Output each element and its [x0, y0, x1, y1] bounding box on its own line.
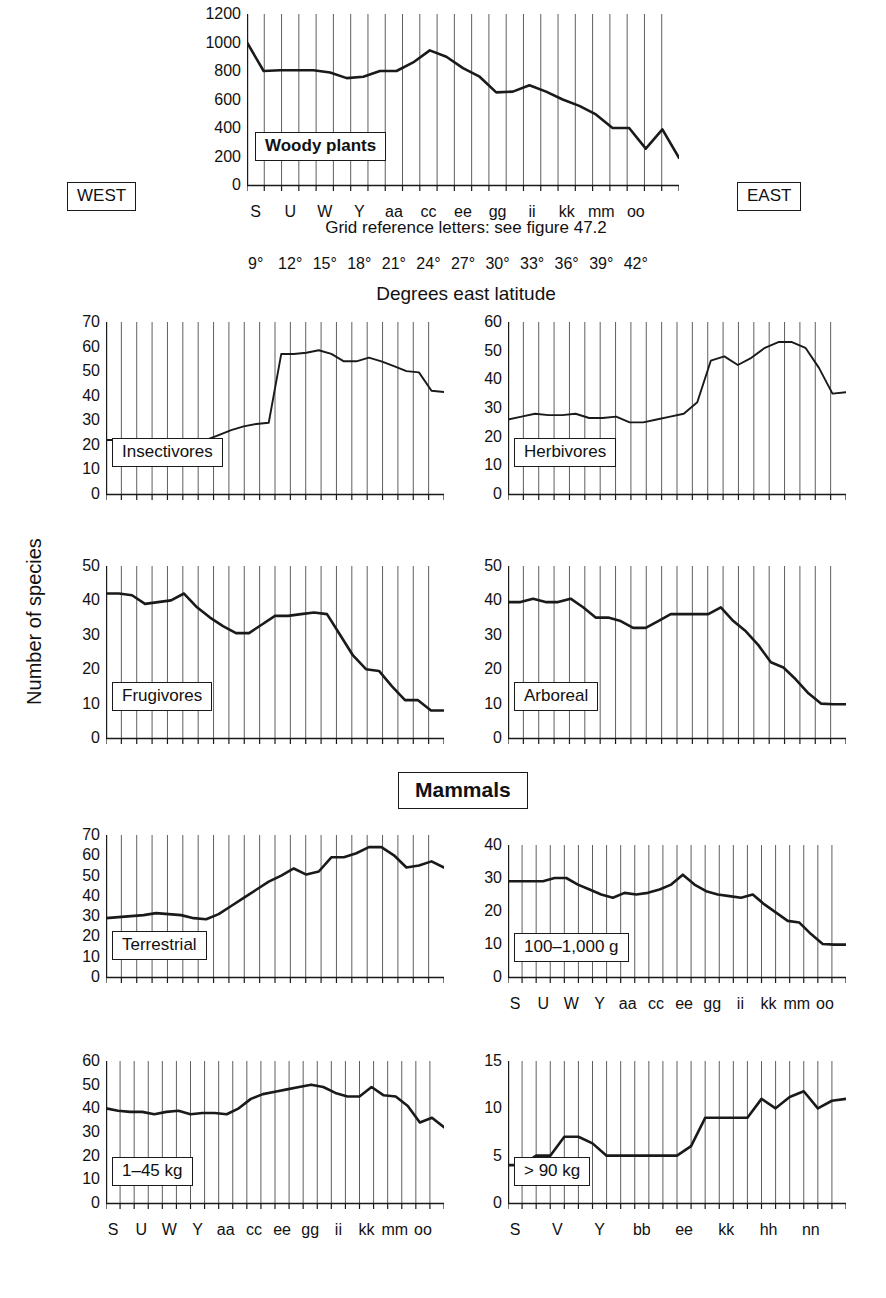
degrees-tick-label: 27° [451, 255, 475, 273]
y-tick-label: 1200 [205, 6, 241, 22]
chart-title-frugivores: Frugivores [112, 682, 212, 711]
degrees-tick-row: 9°12°15°18°21°24°27°30°33°36°39°42° [0, 255, 886, 277]
y-tick-label: 10 [484, 457, 502, 473]
gridlines [121, 566, 428, 738]
y-tick-label: 20 [484, 429, 502, 445]
y-tick-label: 40 [484, 592, 502, 608]
x-tick-label: S [250, 204, 261, 220]
y-axis-ticks-mass-1-45kg: 0102030405060 [66, 1061, 100, 1203]
chart-title-herbivores: Herbivores [514, 438, 616, 467]
chart-svg-mass-1-45kg [106, 1061, 444, 1217]
y-tick-label: 40 [484, 371, 502, 387]
y-tick-label: 0 [91, 1195, 100, 1211]
y-tick-label: 60 [82, 1053, 100, 1069]
y-tick-label: 400 [214, 120, 241, 136]
x-tick-label: ee [454, 204, 472, 220]
chart-panel-woody-plants: 020040060080010001200Woody plantsSUWYaac… [199, 14, 679, 245]
plot-area-herbivores [508, 322, 846, 494]
x-tick-label: nn [802, 1222, 820, 1238]
degrees-caption: Degrees east latitude [376, 283, 556, 305]
x-tick-label: S [108, 1222, 119, 1238]
y-axis-ticks-woody-plants: 020040060080010001200 [199, 14, 241, 185]
degrees-tick-label: 33° [520, 255, 544, 273]
degrees-tick-label: 39° [589, 255, 613, 273]
y-tick-label: 20 [484, 661, 502, 677]
gridlines [523, 566, 830, 738]
x-tick-label: Y [594, 996, 605, 1012]
x-tick-label: V [552, 1222, 563, 1238]
x-tick-label: bb [633, 1222, 651, 1238]
y-tick-label: 40 [484, 837, 502, 853]
x-tick-label: cc [648, 996, 664, 1012]
degrees-tick-label: 15° [313, 255, 337, 273]
degrees-tick-label: 36° [555, 255, 579, 273]
y-tick-label: 200 [214, 149, 241, 165]
x-tick-label: aa [619, 996, 637, 1012]
x-tick-label: kk [359, 1222, 375, 1238]
chart-title-mass-1-45kg: 1–45 kg [112, 1157, 193, 1186]
chart-panel-herbivores: 0102030405060Herbivores [468, 322, 846, 554]
y-tick-label: 10 [484, 696, 502, 712]
y-tick-label: 15 [484, 1053, 502, 1069]
y-axis-ticks-mass-100-1000g: 010203040 [468, 845, 502, 977]
x-tick-label: Y [354, 204, 365, 220]
y-tick-label: 60 [82, 847, 100, 863]
x-tick-label: cc [246, 1222, 262, 1238]
chart-title-terrestrial: Terrestrial [112, 931, 207, 960]
chart-svg-insectivores [106, 322, 444, 508]
y-tick-label: 40 [82, 888, 100, 904]
y-tick-label: 30 [82, 412, 100, 428]
x-tick-label: gg [703, 996, 721, 1012]
y-tick-label: 0 [91, 969, 100, 985]
y-tick-label: 50 [82, 868, 100, 884]
degrees-tick-label: 18° [347, 255, 371, 273]
west-marker: WEST [67, 182, 136, 211]
x-tick-label: oo [414, 1222, 432, 1238]
chart-panel-terrestrial: 010203040506070Terrestrial [66, 835, 444, 1037]
gridlines [121, 322, 428, 494]
y-axis-ticks-terrestrial: 010203040506070 [66, 835, 100, 977]
chart-svg-terrestrial [106, 835, 444, 991]
y-tick-label: 10 [484, 1100, 502, 1116]
y-tick-label: 10 [82, 696, 100, 712]
y-tick-label: 0 [493, 730, 502, 746]
x-tick-label: cc [420, 204, 436, 220]
x-tick-label: ee [675, 1222, 693, 1238]
x-tick-label: W [564, 996, 579, 1012]
chart-svg-herbivores [508, 322, 846, 508]
y-tick-label: 40 [82, 388, 100, 404]
chart-svg-woody-plants [247, 14, 679, 199]
y-tick-label: 50 [484, 343, 502, 359]
chart-svg-frugivores [106, 566, 444, 752]
mammals-header: Mammals [398, 772, 528, 809]
y-tick-label: 60 [484, 314, 502, 330]
x-tick-label: Y [594, 1222, 605, 1238]
y-tick-label: 20 [82, 1148, 100, 1164]
plot-area-frugivores [106, 566, 444, 738]
x-axis-ticks-mass-100-1000g: SUWYaacceeggiikkmmoo [508, 996, 846, 1018]
degrees-tick-label: 24° [416, 255, 440, 273]
chart-svg-mass-100-1000g [508, 845, 846, 991]
y-axis-ticks-insectivores: 010203040506070 [66, 322, 100, 494]
y-tick-label: 0 [232, 177, 241, 193]
y-tick-label: 0 [493, 486, 502, 502]
x-tick-label: ii [335, 1222, 342, 1238]
x-tick-label: Y [192, 1222, 203, 1238]
east-marker: EAST [737, 182, 801, 211]
x-tick-label: mm [381, 1222, 408, 1238]
degrees-tick-label: 9° [248, 255, 263, 273]
y-tick-label: 5 [493, 1148, 502, 1164]
chart-panel-frugivores: 01020304050Frugivores [66, 566, 444, 798]
y-tick-label: 800 [214, 63, 241, 79]
degrees-tick-label: 21° [382, 255, 406, 273]
y-tick-label: 1000 [205, 35, 241, 51]
chart-title-mass-over-90kg: > 90 kg [514, 1157, 590, 1186]
global-y-axis-label: Number of species [23, 502, 46, 742]
y-tick-label: 30 [82, 1124, 100, 1140]
y-tick-label: 20 [82, 661, 100, 677]
y-tick-label: 20 [484, 903, 502, 919]
x-tick-label: aa [217, 1222, 235, 1238]
degrees-tick-label: 30° [485, 255, 509, 273]
x-tick-label: U [284, 204, 296, 220]
x-tick-label: ee [273, 1222, 291, 1238]
